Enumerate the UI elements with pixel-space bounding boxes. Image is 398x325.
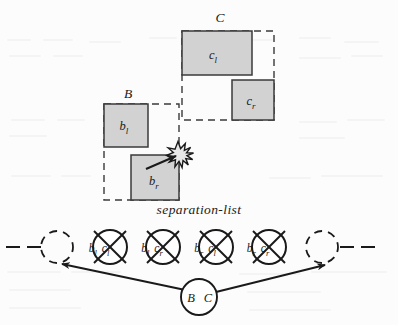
group-label-B: B <box>124 86 132 101</box>
list-node-1: blcl <box>89 230 127 264</box>
box-cr: cr <box>232 80 274 120</box>
pair-node-BC: B C <box>181 279 217 315</box>
list-ghost-node-right <box>306 231 338 263</box>
box-cr-subscript: r <box>252 101 256 111</box>
replacement-arrow-left <box>62 264 190 291</box>
pair-node-BC-right-label: C <box>204 291 213 305</box>
pair-node-BC-left-label: B <box>187 291 195 305</box>
box-bl: bl <box>104 104 148 147</box>
list-node-2: blcr <box>141 230 180 264</box>
list-node-3: brcl <box>194 230 233 264</box>
separation-list-caption: separation-list <box>157 202 243 217</box>
list-ghost-node-left <box>41 231 73 263</box>
box-br-subscript: r <box>155 181 159 191</box>
figure-root: C B cl cr bl br <box>0 0 398 325</box>
list-node-4: brcr <box>247 230 286 264</box>
diagram-canvas: C B cl cr bl br <box>0 0 398 325</box>
replacement-arrow-right <box>216 265 325 292</box>
box-cl: cl <box>182 31 252 75</box>
group-label-C: C <box>215 10 225 25</box>
